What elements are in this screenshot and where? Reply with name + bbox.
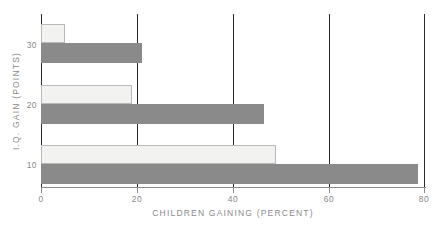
plot-area xyxy=(41,14,425,187)
bar-chart: 0 20 40 60 80 30 20 10 CHILDREN GAINING … xyxy=(0,0,439,230)
gridline-80 xyxy=(424,14,425,187)
y-axis-title: I.Q. GAIN (POINTS) xyxy=(11,31,21,171)
bar-group-10-light xyxy=(41,145,276,164)
bar-group-20-light xyxy=(41,85,132,104)
x-tick-label-0: 0 xyxy=(38,194,43,204)
x-tick-60 xyxy=(329,187,330,193)
bar-group-30-dark xyxy=(41,43,142,63)
bar-group-30-light xyxy=(41,24,65,43)
x-tick-label-20: 20 xyxy=(132,194,142,204)
x-tick-80 xyxy=(424,187,425,193)
x-tick-label-60: 60 xyxy=(324,194,334,204)
bar-group-10-dark xyxy=(41,164,418,184)
bar-group-20-dark xyxy=(41,104,264,124)
gridline-60 xyxy=(329,14,330,187)
x-tick-label-80: 80 xyxy=(419,194,429,204)
x-tick-label-40: 40 xyxy=(228,194,238,204)
x-tick-20 xyxy=(137,187,138,193)
x-tick-0 xyxy=(41,187,42,193)
x-axis-title: CHILDREN GAINING (PERCENT) xyxy=(41,208,425,218)
x-tick-40 xyxy=(233,187,234,193)
